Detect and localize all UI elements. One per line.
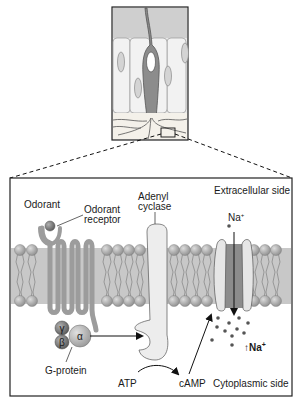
atp-label: ATP bbox=[118, 378, 137, 389]
cytoplasmic-side-label: Cytoplasmic side bbox=[213, 378, 289, 389]
odorant-label: Odorant bbox=[24, 199, 60, 210]
adenyl-cyclase-label-2: cyclase bbox=[138, 201, 172, 212]
na-ion-top bbox=[227, 224, 231, 228]
extracellular-side-label: Extracellular side bbox=[214, 185, 291, 196]
alpha-label: α bbox=[77, 331, 83, 342]
gamma-label: γ bbox=[60, 323, 65, 334]
channel-right-wall bbox=[242, 240, 253, 312]
camp-label: cAMP bbox=[179, 378, 206, 389]
olfactory-transduction-diagram: γ β α Odorant Odorant receptor Adenyl cy… bbox=[0, 0, 301, 402]
gprotein-label: G-protein bbox=[45, 365, 87, 376]
epithelium-inset bbox=[112, 7, 189, 140]
neuron-nucleus bbox=[147, 52, 156, 72]
odorant-molecule bbox=[45, 221, 55, 231]
channel-left-wall bbox=[214, 240, 226, 312]
zoom-lines bbox=[10, 134, 292, 178]
odorant-receptor-label-2: receptor bbox=[84, 214, 121, 225]
beta-label: β bbox=[59, 337, 65, 348]
